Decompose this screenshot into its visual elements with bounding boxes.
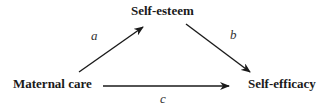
arrow-b <box>186 24 250 72</box>
path-label-c: c <box>160 92 166 105</box>
node-self-efficacy: Self-efficacy <box>248 77 316 90</box>
path-label-a: a <box>91 29 98 42</box>
path-label-b: b <box>230 28 237 41</box>
arrow-a <box>79 27 143 72</box>
node-maternal-care: Maternal care <box>13 77 92 90</box>
node-self-esteem: Self-esteem <box>131 4 194 17</box>
